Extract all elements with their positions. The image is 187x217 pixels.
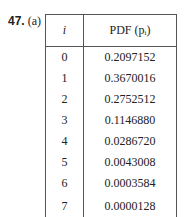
cell-i: 3 bbox=[46, 110, 84, 131]
table-row: 40.0286720 bbox=[46, 131, 177, 152]
cell-pdf: 0.1146880 bbox=[84, 110, 177, 131]
header-pdf: PDF (pᵢ) bbox=[84, 15, 177, 47]
cell-pdf: 0.2097152 bbox=[84, 47, 177, 69]
pdf-table: i PDF (pᵢ) 00.2097152 10.3670016 20.2752… bbox=[45, 14, 177, 217]
cell-i: 2 bbox=[46, 89, 84, 110]
problem-label: 47.(a) bbox=[8, 14, 41, 29]
cell-pdf: 0.0043008 bbox=[84, 152, 177, 173]
table-row: 70.0000128 bbox=[46, 194, 177, 217]
table-row: 10.3670016 bbox=[46, 68, 177, 89]
header-i: i bbox=[46, 15, 84, 47]
cell-pdf: 0.0000128 bbox=[84, 194, 177, 217]
header-row: i PDF (pᵢ) bbox=[46, 15, 177, 47]
cell-pdf: 0.2752512 bbox=[84, 89, 177, 110]
table-row: 20.2752512 bbox=[46, 89, 177, 110]
table-row: 60.0003584 bbox=[46, 173, 177, 194]
cell-pdf: 0.0286720 bbox=[84, 131, 177, 152]
cell-i: 7 bbox=[46, 194, 84, 217]
cell-i: 5 bbox=[46, 152, 84, 173]
cell-pdf: 0.3670016 bbox=[84, 68, 177, 89]
cell-i: 4 bbox=[46, 131, 84, 152]
table-row: 50.0043008 bbox=[46, 152, 177, 173]
problem-number: 47. bbox=[8, 14, 25, 28]
table-row: 30.1146880 bbox=[46, 110, 177, 131]
cell-pdf: 0.0003584 bbox=[84, 173, 177, 194]
table-row: 00.2097152 bbox=[46, 47, 177, 69]
cell-i: 6 bbox=[46, 173, 84, 194]
cell-i: 0 bbox=[46, 47, 84, 69]
cell-i: 1 bbox=[46, 68, 84, 89]
problem-part: (a) bbox=[28, 14, 41, 28]
